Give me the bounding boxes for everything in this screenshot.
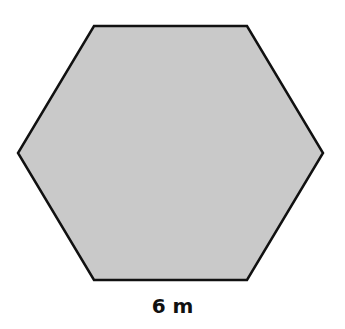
- side-length-label: 6 m: [0, 294, 345, 318]
- hexagon-shape: [18, 26, 323, 280]
- hexagon-figure: [0, 0, 345, 329]
